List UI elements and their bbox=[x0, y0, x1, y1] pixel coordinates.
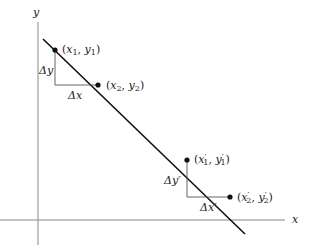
slope-diagram: y x (x1, y1) (x2, y2) (x′1, y′1) (x′2, y… bbox=[0, 0, 312, 250]
point-1 bbox=[52, 47, 57, 52]
delta-y-label: Δy bbox=[38, 64, 54, 77]
delta-x-label: Δx bbox=[67, 89, 83, 102]
point-3-label: (x′1, y′1) bbox=[194, 152, 230, 167]
point-4-label: (x′2, y′2) bbox=[237, 190, 273, 205]
point-3 bbox=[184, 157, 189, 162]
delta-y-prime-label: Δy′ bbox=[163, 174, 181, 187]
y-axis-label: y bbox=[32, 6, 40, 19]
point-1-label: (x1, y1) bbox=[62, 43, 100, 57]
delta-x-prime-label: Δx′ bbox=[199, 201, 217, 214]
point-2-label: (x2, y2) bbox=[106, 79, 144, 93]
point-2 bbox=[95, 82, 100, 87]
point-4 bbox=[227, 194, 232, 199]
x-axis-label: x bbox=[292, 213, 299, 226]
